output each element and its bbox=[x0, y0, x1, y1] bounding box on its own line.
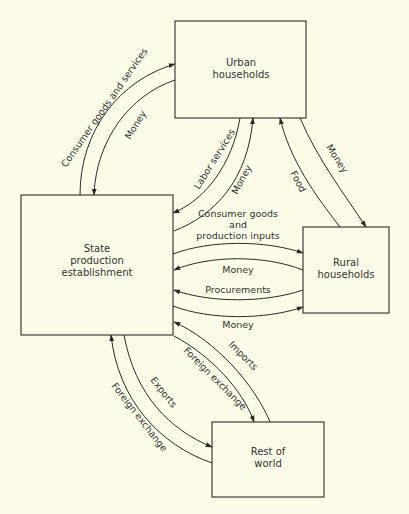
flow-consumer-goods-and-production-inputs: Consumer goods and production inputs bbox=[173, 208, 303, 254]
node-label: households bbox=[213, 69, 270, 80]
flow-procurements: Procurements bbox=[174, 284, 303, 300]
node-label: households bbox=[318, 269, 375, 280]
svg-text:Money: Money bbox=[229, 163, 254, 196]
svg-text:and: and bbox=[229, 219, 247, 230]
flow-labor-services: Labor services bbox=[173, 118, 240, 213]
flow-consumer-goods-and-services: Consumer goods and services bbox=[59, 46, 175, 195]
node-state-production-establishment: State production establishment bbox=[21, 195, 173, 335]
svg-text:Consumer goods and services: Consumer goods and services bbox=[59, 46, 150, 169]
flow-diagram: Urban households State production establ… bbox=[0, 0, 409, 514]
node-label: establishment bbox=[61, 267, 132, 278]
svg-text:Consumer goods: Consumer goods bbox=[198, 208, 278, 219]
node-label: world bbox=[254, 458, 282, 469]
svg-text:Exports: Exports bbox=[148, 374, 179, 409]
flow-money-rural-to-state: Money bbox=[174, 259, 303, 275]
node-label: Urban bbox=[226, 57, 256, 68]
svg-text:Money: Money bbox=[222, 319, 254, 330]
svg-text:Food: Food bbox=[288, 169, 308, 194]
node-label: Rest of bbox=[251, 446, 286, 457]
svg-text:Money: Money bbox=[222, 264, 254, 275]
flow-money-urban-to-rural: Money bbox=[300, 118, 366, 227]
node-label: production bbox=[70, 255, 124, 266]
svg-text:production inputs: production inputs bbox=[196, 230, 279, 241]
flow-food: Food bbox=[280, 118, 340, 227]
node-label: Rural bbox=[333, 257, 359, 268]
svg-text:Labor services: Labor services bbox=[191, 127, 237, 191]
flow-money-state-to-rural: Money bbox=[173, 306, 303, 330]
svg-text:Imports: Imports bbox=[227, 339, 261, 373]
node-label: State bbox=[84, 243, 110, 254]
node-urban-households: Urban households bbox=[175, 21, 306, 118]
svg-text:Procurements: Procurements bbox=[205, 284, 271, 295]
node-rest-of-world: Rest of world bbox=[212, 422, 324, 497]
node-rural-households: Rural households bbox=[303, 227, 389, 313]
